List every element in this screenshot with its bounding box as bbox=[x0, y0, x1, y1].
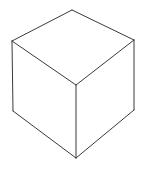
figure-canvas bbox=[0, 0, 142, 170]
cube-line-drawing bbox=[0, 0, 142, 170]
